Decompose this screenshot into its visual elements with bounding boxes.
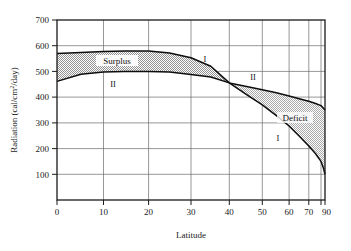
xticklabel-60: 60 (285, 207, 295, 217)
xticklabel-30: 30 (187, 207, 197, 217)
xticklabel-40: 40 (225, 207, 235, 217)
xticklabel-90: 90 (322, 207, 332, 217)
yticklabel-500: 500 (36, 67, 50, 77)
yticklabel-700: 700 (36, 15, 50, 25)
deficit-label: Deficit (283, 113, 308, 123)
radiation-latitude-chart: 700 600 500 400 300 200 100 0 10 20 30 4… (0, 0, 351, 251)
curve-label-I-lower: I (277, 133, 280, 143)
chart-svg: 700 600 500 400 300 200 100 0 10 20 30 4… (0, 0, 351, 251)
y-axis-title: Radiation (cal/cm2/day) (9, 67, 19, 153)
yticklabel-600: 600 (36, 41, 50, 51)
curve-label-II-right: II (250, 72, 256, 82)
xticklabel-50: 50 (258, 207, 268, 217)
yticklabel-200: 200 (36, 144, 50, 154)
surplus-label: Surplus (103, 56, 131, 66)
deficit-annotation: Deficit (277, 112, 313, 123)
x-axis-title: Latitude (176, 230, 206, 240)
yticklabel-100: 100 (36, 170, 50, 180)
xticklabel-70: 70 (304, 207, 314, 217)
yticklabel-400: 400 (36, 92, 50, 102)
curve-label-II-left: II (110, 79, 116, 89)
curve-label-I-upper: I (204, 54, 207, 64)
y-axis-title-tail: /day) (9, 67, 19, 86)
xticklabel-0: 0 (55, 207, 60, 217)
xticklabel-20: 20 (144, 207, 154, 217)
surplus-annotation: Surplus (96, 55, 138, 66)
xticklabel-10: 10 (99, 207, 109, 217)
yticklabel-300: 300 (36, 118, 50, 128)
y-axis-title-main: Radiation (cal/cm (9, 89, 19, 153)
